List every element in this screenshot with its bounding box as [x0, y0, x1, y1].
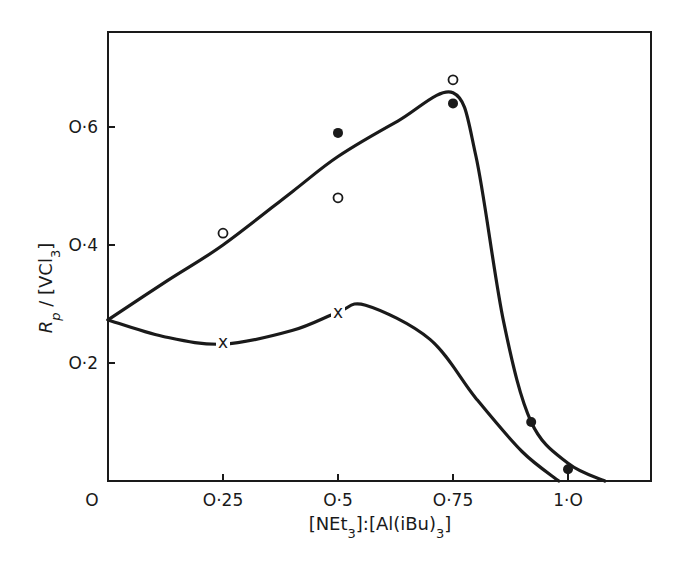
x-tick-label: O·5 [323, 490, 353, 510]
x-tick-label: 1·O [553, 490, 583, 510]
filled-circle-marker [448, 98, 458, 108]
y-tick-label: O·2 [68, 353, 98, 373]
cross-marker: x [218, 332, 228, 352]
axis-ticks: OO·25O·5O·751·OO·2O·4O·6 [68, 117, 582, 510]
lower-curve [108, 304, 559, 481]
filled-circle-marker [526, 417, 536, 427]
y-axis-label: Rp / [VCl3] [35, 243, 63, 334]
open-circle-marker [334, 193, 343, 202]
plot-border [108, 32, 651, 481]
filled-circle-marker [333, 128, 343, 138]
data-markers: xx [216, 75, 573, 474]
x-tick-label: O [85, 490, 98, 510]
open-circle-marker [219, 229, 228, 238]
x-tick-label: O·25 [203, 490, 243, 510]
y-tick-label: O·6 [68, 117, 98, 137]
filled-circle-marker [563, 464, 573, 474]
x-axis-label: [NEt3]:[Al(iBu)3] [309, 513, 452, 541]
open-circle-marker [449, 75, 458, 84]
y-tick-label: O·4 [68, 235, 98, 255]
chart: OO·25O·5O·751·OO·2O·4O·6 xx [NEt3]:[Al(i… [0, 0, 679, 568]
plot-frame [108, 32, 651, 481]
cross-marker: x [333, 302, 343, 322]
x-tick-label: O·75 [433, 490, 473, 510]
